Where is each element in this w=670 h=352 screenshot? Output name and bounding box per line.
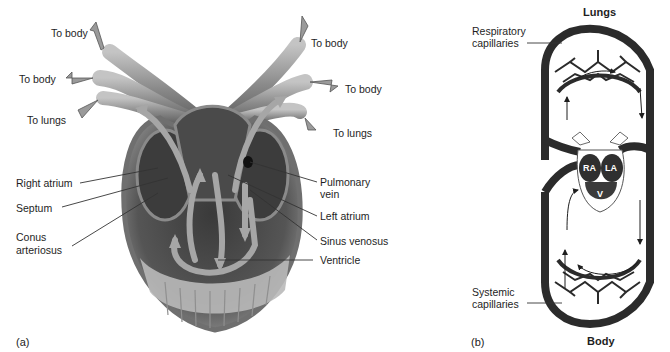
frog-heart-illustration bbox=[66, 16, 338, 330]
label-la: LA bbox=[605, 162, 617, 174]
label-conus-arteriosus-2: arteriosus bbox=[16, 244, 62, 256]
label-to-body-mid-left: To body bbox=[19, 73, 56, 85]
label-to-lungs-left: To lungs bbox=[27, 114, 66, 126]
label-sinus-venosus: Sinus venosus bbox=[320, 235, 388, 247]
label-to-lungs-right: To lungs bbox=[333, 127, 372, 139]
label-conus-arteriosus-1: Conus bbox=[16, 231, 46, 243]
panel-b-tag: (b) bbox=[471, 336, 484, 348]
panel-a-tag: (a) bbox=[16, 336, 29, 348]
label-left-atrium: Left atrium bbox=[320, 210, 370, 222]
label-v: V bbox=[597, 188, 603, 200]
label-body: Body bbox=[587, 335, 615, 347]
label-respiratory-capillaries-2: capillaries bbox=[472, 37, 519, 49]
label-right-atrium: Right atrium bbox=[16, 177, 73, 189]
label-to-body-mid-right: To body bbox=[345, 83, 382, 95]
label-ra: RA bbox=[583, 162, 596, 174]
label-systemic-capillaries-2: capillaries bbox=[472, 298, 519, 310]
circulation-schematic bbox=[545, 29, 650, 324]
label-pulmonary-vein-1: Pulmonary bbox=[320, 176, 370, 188]
label-to-body-top-right: To body bbox=[311, 37, 348, 49]
label-lungs: Lungs bbox=[583, 6, 616, 18]
label-septum: Septum bbox=[16, 202, 52, 214]
label-to-body-top-left: To body bbox=[51, 27, 88, 39]
label-ventricle: Ventricle bbox=[320, 254, 360, 266]
label-pulmonary-vein-2: vein bbox=[320, 188, 339, 200]
label-respiratory-capillaries-1: Respiratory bbox=[472, 25, 526, 37]
label-systemic-capillaries-1: Systemic bbox=[472, 286, 515, 298]
